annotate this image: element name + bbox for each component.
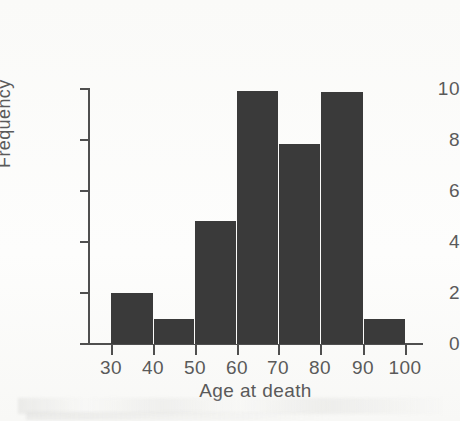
bar-30-40 <box>111 293 153 344</box>
x-axis-title: Age at death <box>88 380 423 402</box>
bar-70-80 <box>278 144 320 344</box>
x-tick-100 <box>405 345 407 355</box>
x-tick-70 <box>278 345 280 355</box>
x-tick-50 <box>195 345 197 355</box>
bar-60-70 <box>236 91 278 344</box>
bar-90-100 <box>363 319 405 344</box>
x-tick-60 <box>237 345 239 355</box>
plot-area <box>88 89 423 344</box>
bar-80-90 <box>320 92 363 344</box>
scan-artifact-bottom <box>26 412 326 420</box>
histogram-figure: 10 8 6 4 2 0 30 40 50 60 70 80 90 100 Fr… <box>0 0 460 421</box>
x-tick-80 <box>320 345 322 355</box>
x-tick-label-100: 100 <box>379 358 431 378</box>
x-tick-90 <box>363 345 365 355</box>
x-tick-40 <box>153 345 155 355</box>
y-axis-title: Frequency <box>0 79 15 168</box>
x-tick-30 <box>111 345 113 355</box>
bar-50-60 <box>194 221 236 344</box>
bar-40-50 <box>153 319 194 345</box>
